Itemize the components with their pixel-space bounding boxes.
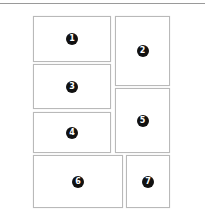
panel-3: 3 — [33, 64, 111, 109]
number-badge-2: 2 — [137, 45, 149, 57]
number-badge-6: 6 — [72, 176, 84, 188]
panel-7: 7 — [126, 155, 170, 208]
number-badge-7: 7 — [142, 176, 154, 188]
panel-4: 4 — [33, 112, 111, 153]
panel-1: 1 — [33, 16, 111, 62]
number-badge-3: 3 — [66, 81, 78, 93]
number-badge-1: 1 — [66, 33, 78, 45]
panel-6: 6 — [33, 155, 123, 208]
number-badge-5: 5 — [137, 115, 149, 127]
panel-2: 2 — [115, 16, 170, 86]
panel-5: 5 — [115, 88, 170, 153]
top-divider — [0, 3, 205, 4]
number-badge-4: 4 — [66, 127, 78, 139]
